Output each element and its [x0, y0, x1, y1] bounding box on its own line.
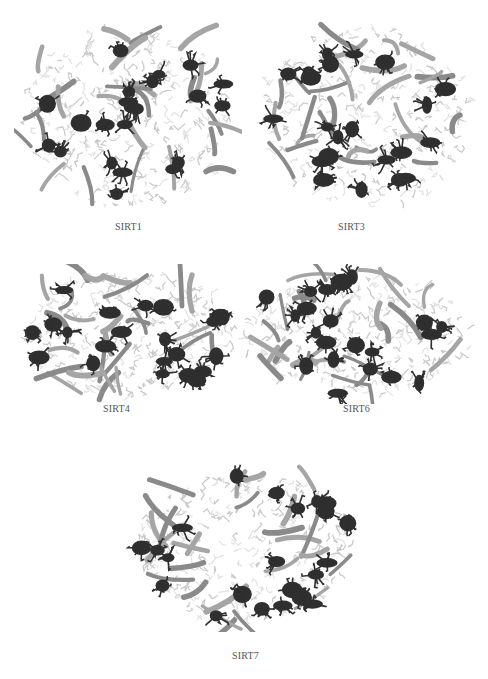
panel-sirt3	[252, 14, 480, 220]
protein-structure-graphic	[14, 14, 242, 220]
protein-structure-graphic	[126, 462, 364, 632]
protein-structure-graphic	[252, 14, 480, 220]
panel-sirt6	[232, 264, 480, 404]
panel-sirt4	[14, 264, 242, 404]
label-sirt1: SIRT1	[115, 221, 142, 232]
label-sirt6: SIRT6	[343, 403, 370, 414]
protein-structure-graphic	[14, 264, 242, 404]
panel-sirt7	[126, 462, 364, 632]
label-sirt3: SIRT3	[338, 221, 365, 232]
panel-sirt1	[14, 14, 242, 220]
protein-structure-graphic	[232, 264, 480, 404]
label-sirt7: SIRT7	[232, 650, 259, 661]
label-sirt4: SIRT4	[103, 403, 130, 414]
